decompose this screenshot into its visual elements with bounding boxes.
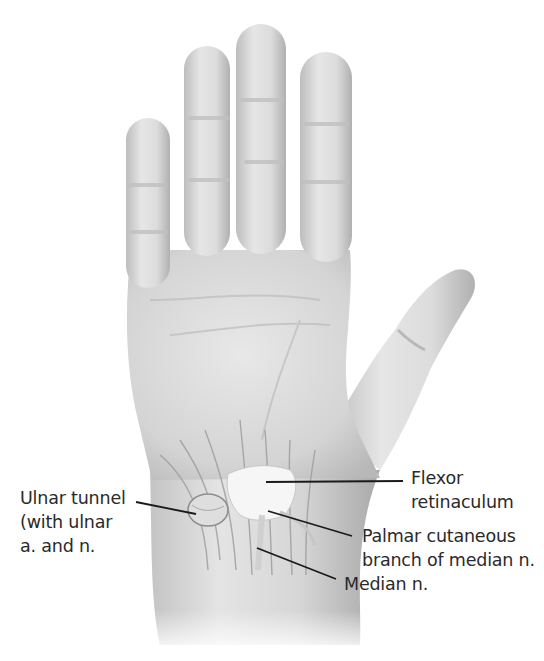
flexor-retinaculum-shape xyxy=(227,466,296,521)
little-finger xyxy=(126,118,170,288)
palm xyxy=(127,250,380,480)
median-nerve-shape xyxy=(258,515,262,570)
flexor-retinaculum-line xyxy=(266,481,403,482)
label-ulnar-tunnel: Ulnar tunnel (with ulnar a. and n. xyxy=(20,486,126,558)
label-median-nerve: Median n. xyxy=(344,572,428,596)
index-finger xyxy=(300,52,352,262)
label-palmar-cutaneous-branch: Palmar cutaneous branch of median n. xyxy=(362,524,535,572)
label-flexor-retinaculum: Flexor retinaculum xyxy=(411,466,514,514)
ring-finger xyxy=(184,46,230,256)
middle-finger xyxy=(236,24,286,254)
